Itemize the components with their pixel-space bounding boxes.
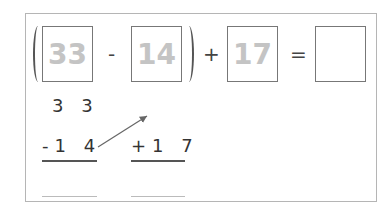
arrow-icon xyxy=(0,0,391,212)
